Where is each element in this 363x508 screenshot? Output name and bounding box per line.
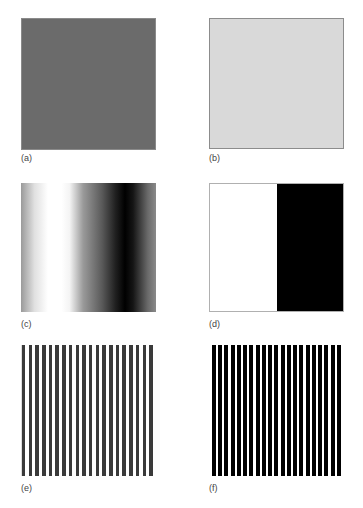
panel-label-b: (b) — [209, 154, 220, 163]
panel-d-black-white-split — [209, 183, 344, 312]
panel-label-f: (f) — [209, 484, 218, 493]
panel-e-gray-stripes — [21, 345, 156, 476]
panel-label-e: (e) — [21, 484, 32, 493]
panel-a-uniform-dark-gray — [21, 18, 156, 150]
white-half — [210, 184, 277, 311]
panel-f-black-stripes — [212, 345, 343, 476]
panel-label-d: (d) — [209, 320, 220, 329]
black-half — [277, 184, 344, 311]
panel-label-a: (a) — [21, 154, 32, 163]
panel-b-uniform-light-gray — [209, 18, 344, 149]
panel-c-sinusoidal-gradient — [21, 183, 156, 312]
panel-label-c: (c) — [21, 320, 32, 329]
